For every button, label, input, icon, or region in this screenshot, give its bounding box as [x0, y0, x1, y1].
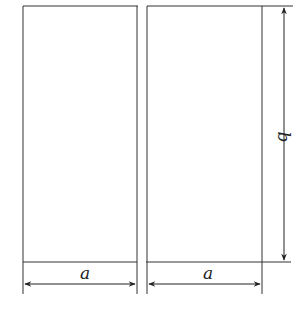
dimension-a-left: a — [25, 263, 135, 284]
left-rectangle — [23, 6, 138, 294]
label-b: b — [274, 132, 294, 143]
label-a-right: a — [203, 263, 213, 283]
dimension-a-right: a — [149, 263, 260, 284]
right-rectangle — [146, 6, 293, 294]
diagram-canvas: a a b — [0, 0, 301, 324]
dimension-b: b — [274, 8, 294, 260]
label-a-left: a — [80, 263, 90, 283]
